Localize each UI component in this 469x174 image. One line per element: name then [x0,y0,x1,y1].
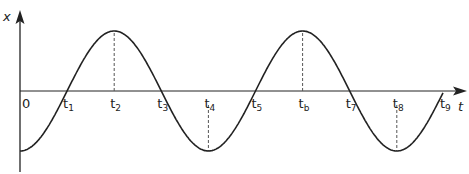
time-label-9: t9 [440,96,451,113]
x-axis-label: t [458,99,464,114]
time-labels: t1t2t3t4t5tbt7t8t9 [63,96,451,113]
time-label-5: t5 [252,96,263,113]
time-label-1: t1 [63,96,74,113]
displacement-time-diagram: x t 0 t1t2t3t4t5tbt7t8t9 [0,0,469,174]
time-label-8: t8 [393,96,404,113]
time-label-2: t2 [110,96,121,113]
origin-label: 0 [22,96,30,111]
time-label-3: t3 [157,96,168,113]
time-label-7: t7 [346,96,357,113]
y-axis-label: x [2,9,11,24]
time-label-6: tb [299,96,310,113]
time-label-4: t4 [204,96,215,113]
